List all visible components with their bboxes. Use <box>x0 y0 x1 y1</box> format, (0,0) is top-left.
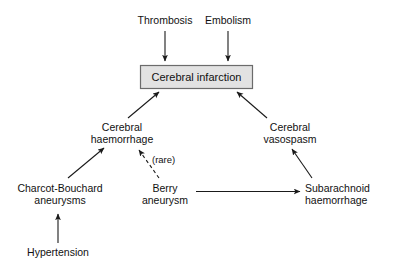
node-subarachnoid-label-line2: haemorrhage <box>305 194 368 206</box>
node-cerebral-haemorrhage-label-line2: haemorrhage <box>91 133 154 145</box>
node-hypertension-label: Hypertension <box>27 246 89 258</box>
cerebral-infarction-box-label: Cerebral infarction <box>152 71 242 83</box>
edge-label-rare: (rare) <box>152 154 175 165</box>
node-charcot-bouchard-label-line2: aneurysms <box>34 194 85 206</box>
node-thrombosis-label: Thrombosis <box>138 14 193 26</box>
node-cerebral-haemorrhage-label-line1: Cerebral <box>102 121 142 133</box>
flowchart-canvas: Thrombosis Embolism Cerebral infarction … <box>0 0 393 279</box>
edge-haemorrhage-to-infarction <box>128 92 159 118</box>
flowchart-svg: Thrombosis Embolism Cerebral infarction … <box>0 0 393 279</box>
node-cerebral-vasospasm-label-line2: vasospasm <box>263 133 316 145</box>
node-embolism-label: Embolism <box>205 14 251 26</box>
node-subarachnoid-label-line1: Subarachnoid <box>305 182 370 194</box>
node-cerebral-vasospasm-label-line1: Cerebral <box>270 121 310 133</box>
node-berry-aneurysm-label-line2: aneurysm <box>142 194 188 206</box>
edge-charcot-to-haemorrhage <box>68 148 104 178</box>
edge-vasospasm-to-infarction <box>237 92 267 118</box>
edge-subarachnoid-to-vasospasm <box>292 149 312 178</box>
node-berry-aneurysm-label-line1: Berry <box>152 182 178 194</box>
node-charcot-bouchard-label-line1: Charcot-Bouchard <box>17 182 102 194</box>
